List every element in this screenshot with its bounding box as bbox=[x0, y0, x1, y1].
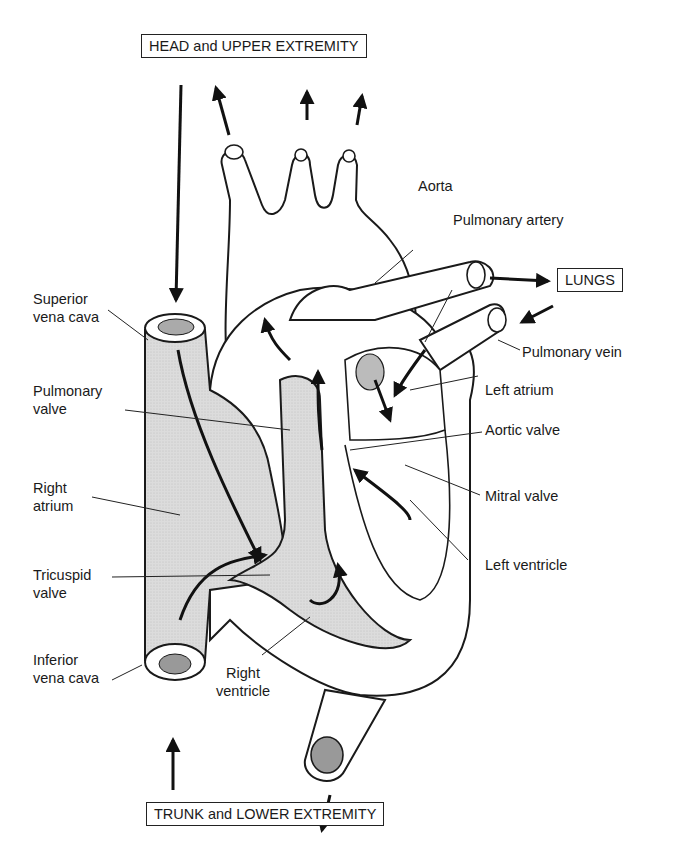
lungs-box: LUNGS bbox=[557, 268, 623, 292]
label-left-ventricle: Left ventricle bbox=[485, 556, 567, 574]
label-inferior-vena-cava: Inferior vena cava bbox=[33, 651, 99, 687]
label-pulmonary-artery: Pulmonary artery bbox=[453, 211, 563, 229]
label-left-atrium: Left atrium bbox=[485, 381, 554, 399]
head-upper-extremity-box: HEAD and UPPER EXTREMITY bbox=[141, 34, 367, 58]
label-right-atrium: Right atrium bbox=[33, 479, 73, 515]
label-pulmonary-valve: Pulmonary valve bbox=[33, 382, 102, 418]
label-pulmonary-vein: Pulmonary vein bbox=[522, 343, 622, 361]
label-mitral-valve: Mitral valve bbox=[485, 487, 558, 505]
trunk-lower-extremity-box: TRUNK and LOWER EXTREMITY bbox=[146, 802, 384, 826]
label-aortic-valve: Aortic valve bbox=[485, 421, 560, 439]
heart-diagram bbox=[0, 0, 679, 850]
label-superior-vena-cava: Superior vena cava bbox=[33, 290, 99, 326]
label-aorta: Aorta bbox=[418, 177, 453, 195]
label-right-ventricle: Right ventricle bbox=[216, 664, 270, 700]
label-tricuspid-valve: Tricuspid valve bbox=[33, 566, 91, 602]
